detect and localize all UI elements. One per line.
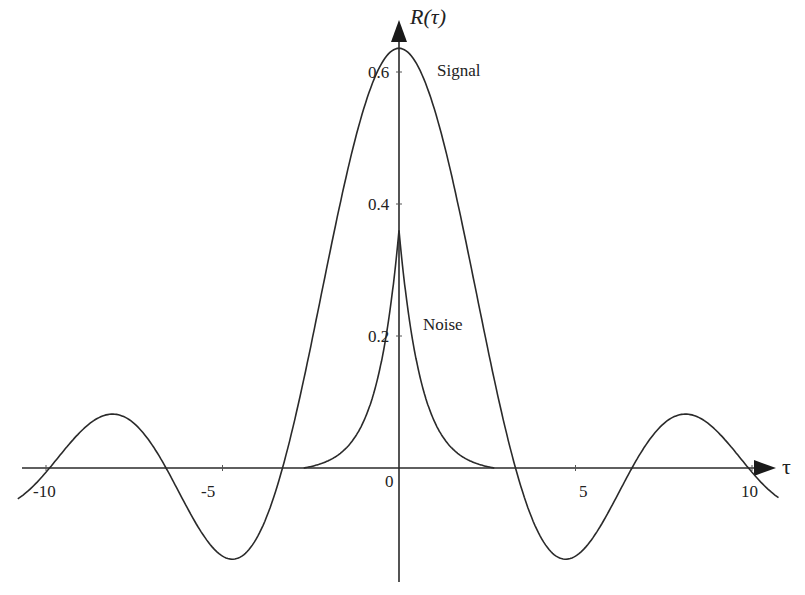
y-tick-0.6: 0.6 <box>368 64 389 81</box>
x-tick-0: 0 <box>385 473 394 490</box>
y-tick-0.4: 0.4 <box>368 196 389 213</box>
signal-curve <box>18 48 779 559</box>
x-axis-label: τ <box>782 456 791 478</box>
x-tick-10: 10 <box>741 483 758 500</box>
y-tick-0.2: 0.2 <box>368 328 389 345</box>
x-axis-arrow-icon <box>754 460 776 476</box>
y-axis-label: R(τ) <box>410 6 446 28</box>
x-tick-5: 5 <box>579 483 588 500</box>
x-tick-minus-10: -10 <box>33 483 56 500</box>
signal-label: Signal <box>437 62 480 79</box>
y-axis-arrow-icon <box>391 20 407 42</box>
noise-label: Noise <box>423 316 463 333</box>
autocorrelation-chart <box>0 0 805 595</box>
x-tick-minus-5: -5 <box>201 483 215 500</box>
axes <box>22 38 760 582</box>
